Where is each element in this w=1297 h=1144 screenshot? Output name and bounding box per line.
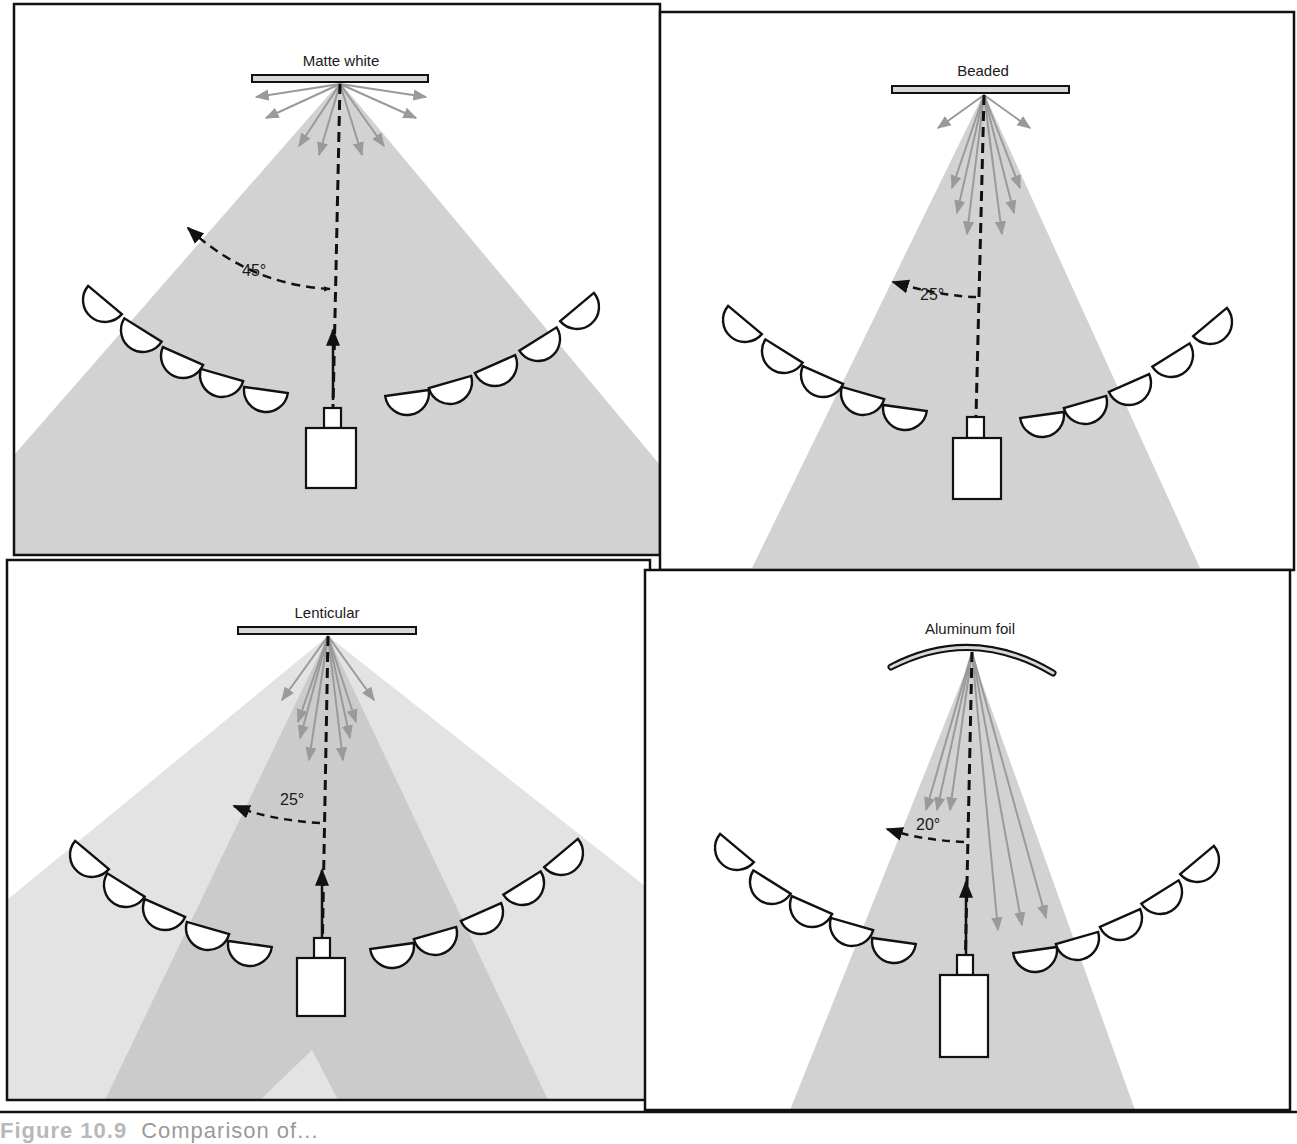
panel-matte-white: Matte white 45°	[14, 4, 660, 555]
panel-beaded: Beaded 25°	[660, 12, 1297, 570]
panel-title: Lenticular	[294, 604, 359, 621]
panel-title: Aluminum foil	[925, 620, 1015, 637]
screen-flat	[252, 75, 428, 82]
panel-aluminum-foil: Aluminum foil 20°	[645, 570, 1290, 1110]
screen-flat	[238, 627, 416, 634]
angle-label: 20°	[916, 816, 940, 833]
figure-caption: Figure 10.9Comparison of...	[0, 1118, 319, 1144]
screen-flat	[892, 86, 1069, 93]
angle-label: 25°	[280, 791, 304, 808]
angle-label: 25°	[920, 286, 944, 303]
angle-label: 45°	[242, 262, 266, 279]
panel-title: Matte white	[303, 52, 380, 69]
caption-number: Figure 10.9	[0, 1118, 127, 1143]
panel-lenticular: Lenticular 25°	[7, 560, 650, 1100]
panel-title: Beaded	[957, 62, 1009, 79]
caption-text: Comparison of...	[141, 1118, 318, 1143]
